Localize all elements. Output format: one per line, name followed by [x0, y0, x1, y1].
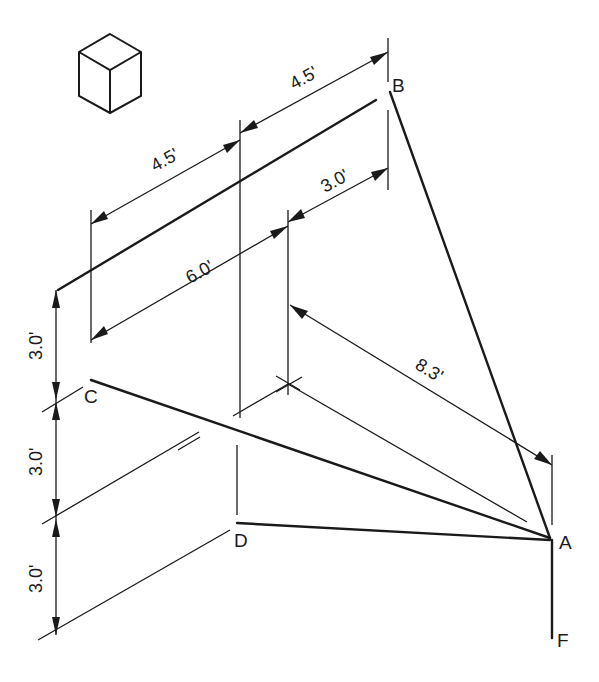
dimension-label-vert-top: 3.0'	[26, 332, 46, 360]
dimension-label-top-left: 4.5'	[147, 144, 182, 175]
point-label-a: A	[559, 532, 572, 553]
point-label-d: D	[234, 530, 248, 551]
dimension-label-8-3: 8.3'	[412, 354, 447, 386]
line-d-a	[237, 523, 550, 540]
dimension-label-vert-bot: 3.0'	[26, 565, 46, 593]
isometric-cube-icon	[79, 34, 141, 113]
dimension-label-vert-mid: 3.0'	[26, 448, 46, 476]
dimension-label-mid-3-0: 3.0'	[317, 165, 352, 196]
point-label-c: C	[84, 386, 98, 407]
point-label-f: F	[557, 630, 569, 651]
dimension-label-6-0: 6.0'	[182, 256, 217, 287]
line-c-a	[91, 380, 550, 538]
dimension-label-top-right: 4.5'	[286, 62, 321, 93]
point-label-b: B	[392, 75, 405, 96]
isometric-dimension-diagram: 4.5' 4.5' 3.0' 6.0' 8.3' 3.0' 3.0' 3.0' …	[0, 0, 599, 682]
line-b-a	[390, 92, 550, 538]
